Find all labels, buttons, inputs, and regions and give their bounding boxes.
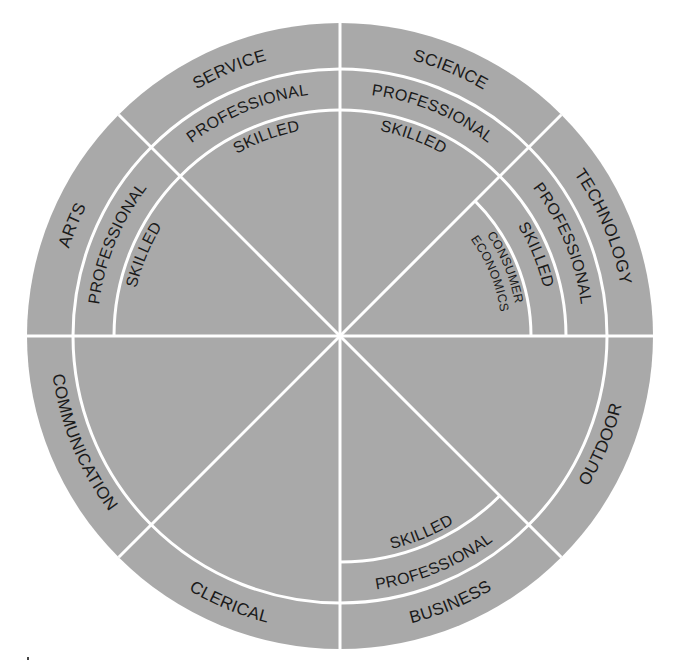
career-wheel-diagram: SCIENCE SERVICE ARTS TECHNOLOGY COMMUNIC… — [0, 0, 674, 662]
wheel-lines — [27, 23, 653, 649]
stray-mark — [27, 657, 29, 660]
